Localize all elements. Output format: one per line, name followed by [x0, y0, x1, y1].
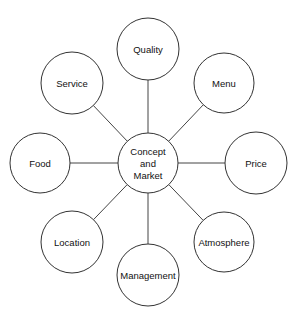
center-label-line: Market — [133, 170, 162, 181]
node-location: Location — [41, 211, 103, 273]
node-label: Menu — [212, 78, 236, 89]
node-label: Atmosphere — [198, 237, 249, 248]
node-management: Management — [117, 244, 179, 306]
node-label: Quality — [133, 44, 163, 55]
edge-menu — [169, 105, 204, 142]
center-label-line: Concept — [130, 146, 166, 157]
node-menu: Menu — [194, 53, 254, 113]
edge-location — [93, 185, 127, 220]
edge-service — [93, 105, 127, 141]
node-label: Location — [54, 237, 90, 248]
node-quality: Quality — [117, 18, 179, 80]
node-concept-and-market: ConceptandMarket — [118, 133, 178, 193]
node-atmosphere: Atmosphere — [194, 212, 254, 272]
node-food: Food — [10, 133, 70, 193]
center-label-line: and — [140, 158, 156, 169]
node-label: Management — [120, 270, 176, 281]
node-label: Service — [56, 78, 88, 89]
concept-diagram: ConceptandMarketQualityMenuPriceAtmosphe… — [0, 0, 295, 312]
node-label: Food — [29, 158, 51, 169]
node-label: Price — [245, 158, 267, 169]
node-service: Service — [41, 52, 103, 114]
edge-atmosphere — [169, 185, 203, 221]
diagram-nodes: ConceptandMarketQualityMenuPriceAtmosphe… — [10, 18, 287, 306]
node-price: Price — [225, 132, 287, 194]
